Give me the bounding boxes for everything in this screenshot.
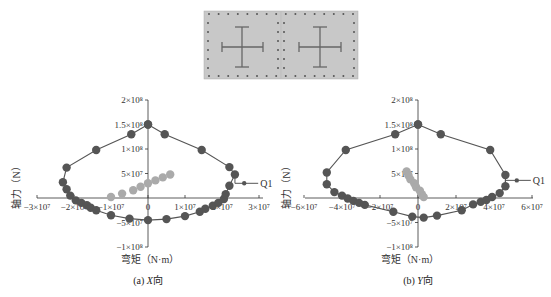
y-axis-label: 轴力（N） xyxy=(10,161,22,208)
data-point xyxy=(323,168,331,176)
rebar-dot-icon xyxy=(277,40,279,42)
rebar-dot-icon xyxy=(323,13,325,15)
rebar-dot-icon xyxy=(304,75,306,77)
rebar-dot-icon xyxy=(353,22,355,24)
chart-y-direction: −6×10⁷−4×10⁷−2×10⁷02×10⁷4×10⁷6×10⁷−1×10⁸… xyxy=(280,95,545,287)
rebar-dot-icon xyxy=(208,75,210,77)
x-tick-label: 0 xyxy=(416,202,421,212)
y-tick-label: 1×10⁸ xyxy=(121,144,143,154)
rebar-dot-icon xyxy=(353,31,355,33)
y-tick-label: 5×10⁷ xyxy=(121,169,143,179)
rebar-dot-icon xyxy=(208,13,210,15)
data-point xyxy=(420,213,428,221)
rebar-dot-icon xyxy=(277,67,279,69)
rebar-dot-icon xyxy=(266,75,268,77)
data-point xyxy=(437,130,445,138)
y-axis-label: 轴力（N） xyxy=(280,161,292,208)
rebar-dot-icon xyxy=(333,13,335,15)
data-point xyxy=(107,193,115,201)
rebar-dot-icon xyxy=(285,75,287,77)
rebar-dot-icon xyxy=(256,13,258,15)
data-point xyxy=(166,170,174,178)
rebar-dot-icon xyxy=(246,13,248,15)
rebar-dot-icon xyxy=(277,31,279,33)
y-tick-label: −1×10⁸ xyxy=(116,242,143,252)
x-tick-label: −3×10⁷ xyxy=(24,202,51,212)
data-point xyxy=(144,216,152,224)
rebar-dot-icon xyxy=(207,40,209,42)
rebar-dot-icon xyxy=(283,58,285,60)
chart-caption: (a) X向 xyxy=(133,274,163,287)
data-point xyxy=(159,173,167,181)
data-point xyxy=(361,201,369,209)
rebar-dot-icon xyxy=(353,49,355,51)
data-point xyxy=(225,182,233,190)
rebar-dot-icon xyxy=(352,75,354,77)
rebar-dot-icon xyxy=(294,13,296,15)
data-point xyxy=(62,163,70,171)
x-tick-label: 3×10⁷ xyxy=(248,202,270,212)
data-point xyxy=(469,200,477,208)
rebar-dot-icon xyxy=(314,75,316,77)
data-point xyxy=(408,212,416,220)
data-point xyxy=(201,205,209,213)
data-point xyxy=(414,120,422,128)
x-tick-label: 0 xyxy=(146,202,151,212)
rebar-dot-icon xyxy=(352,13,354,15)
y-tick-label: 1.5×10⁸ xyxy=(115,120,143,130)
annotation-q1: Q1 xyxy=(533,175,545,186)
rebar-dot-icon xyxy=(207,49,209,51)
x-axis-label: 弯矩（N·m） xyxy=(121,253,179,265)
rebar-dot-icon xyxy=(342,75,344,77)
data-point xyxy=(458,206,466,214)
y-tick-label: −1×10⁸ xyxy=(386,242,413,252)
x-tick-label: −1×10⁷ xyxy=(98,202,125,212)
x-tick-label: −6×10⁷ xyxy=(291,202,318,212)
rebar-dot-icon xyxy=(304,13,306,15)
y-tick-label: 1×10⁸ xyxy=(391,144,413,154)
rebar-dot-icon xyxy=(283,49,285,51)
data-point xyxy=(486,146,494,154)
rebar-dot-icon xyxy=(218,13,220,15)
rebar-dot-icon xyxy=(266,13,268,15)
data-point xyxy=(501,171,509,179)
rebar-dot-icon xyxy=(207,58,209,60)
data-point xyxy=(144,179,152,187)
x-axis-label: 弯矩（N·m） xyxy=(381,253,439,265)
data-point xyxy=(496,189,504,197)
figure: −3×10⁷−2×10⁷−1×10⁷01×10⁷2×10⁷3×10⁷−1×10⁸… xyxy=(0,0,551,297)
y-tick-label: 2×10⁸ xyxy=(391,95,413,105)
rebar-dot-icon xyxy=(342,13,344,15)
data-point xyxy=(323,180,331,188)
data-point xyxy=(222,190,230,198)
x-tick-label: 1×10⁷ xyxy=(174,202,196,212)
rebar-dot-icon xyxy=(277,22,279,24)
data-point xyxy=(433,211,441,219)
rebar-dot-icon xyxy=(277,58,279,60)
rebar-dot-icon xyxy=(323,75,325,77)
data-point xyxy=(330,188,338,196)
rebar-dot-icon xyxy=(285,13,287,15)
data-point xyxy=(198,146,206,154)
data-point xyxy=(225,163,233,171)
rebar-dot-icon xyxy=(283,31,285,33)
data-point xyxy=(161,130,169,138)
rebar-dot-icon xyxy=(237,75,239,77)
data-point xyxy=(144,120,152,128)
data-point xyxy=(151,176,159,184)
data-point xyxy=(389,208,397,216)
rebar-dot-icon xyxy=(283,67,285,69)
data-point xyxy=(107,211,115,219)
rebar-dot-icon xyxy=(207,67,209,69)
rebar-dot-icon xyxy=(256,75,258,77)
rebar-dot-icon xyxy=(275,75,277,77)
rebar-dot-icon xyxy=(237,13,239,15)
chart-caption: (b) Y向 xyxy=(403,274,433,287)
data-point xyxy=(181,212,189,220)
rebar-dot-icon xyxy=(314,13,316,15)
rebar-dot-icon xyxy=(294,75,296,77)
rebar-dot-icon xyxy=(277,49,279,51)
rebar-dot-icon xyxy=(227,13,229,15)
chart-x-direction: −3×10⁷−2×10⁷−1×10⁷01×10⁷2×10⁷3×10⁷−1×10⁸… xyxy=(10,95,272,287)
rebar-dot-icon xyxy=(283,40,285,42)
